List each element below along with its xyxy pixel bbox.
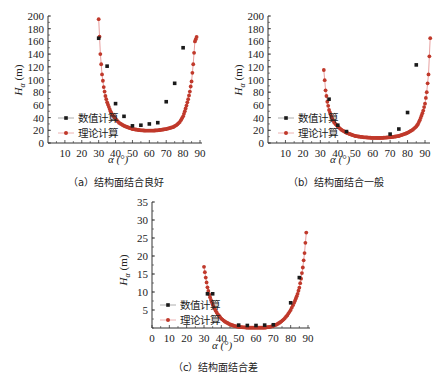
numeric-point: [327, 97, 331, 101]
x-tick-label: 60: [367, 147, 379, 159]
x-tick-label: 10: [280, 147, 292, 159]
numeric-point: [397, 127, 401, 131]
theory-point: [424, 96, 428, 100]
theory-line: [324, 38, 430, 138]
theory-point: [428, 36, 432, 40]
y-tick-label: 160: [248, 35, 265, 47]
y-tick-label: 0: [259, 137, 265, 149]
numeric-point: [105, 64, 109, 68]
legend-numeric-marker: [284, 116, 288, 120]
theory-point: [325, 94, 329, 98]
legend-theory-label: 理论计算: [78, 127, 118, 139]
numeric-point: [181, 46, 185, 50]
theory-point: [188, 90, 192, 94]
y-tick-label: 10: [137, 286, 149, 298]
y-tick-label: 20: [253, 124, 265, 136]
theory-point: [103, 90, 107, 94]
y-tick-label: 120: [28, 61, 45, 73]
numeric-point: [237, 323, 241, 327]
y-tick-label: 5: [143, 304, 149, 316]
caption-b: （b）结构面结合一般: [288, 174, 384, 189]
x-tick-label: 90: [303, 332, 315, 344]
x-tick-label: 0: [149, 332, 155, 344]
x-tick-label: 70: [385, 147, 397, 159]
x-axis-label: α (°): [108, 153, 129, 166]
x-tick-label: 20: [76, 147, 88, 159]
theory-point: [206, 285, 210, 289]
legend-theory-marker: [284, 131, 288, 135]
x-tick-label: 50: [350, 147, 362, 159]
theory-point: [422, 105, 426, 109]
numeric-point: [131, 124, 135, 128]
theory-point: [104, 97, 108, 101]
numeric-point: [254, 324, 258, 328]
y-tick-label: 160: [28, 35, 45, 47]
y-tick-label: 80: [253, 86, 265, 98]
theory-point: [202, 265, 206, 269]
y-tick-label: 15: [137, 268, 149, 280]
y-tick-label: 25: [137, 232, 149, 244]
x-tick-label: 10: [164, 332, 176, 344]
x-tick-label: 30: [199, 332, 211, 344]
theory-point: [304, 231, 308, 235]
theory-point: [191, 62, 195, 66]
theory-point: [195, 35, 199, 39]
x-tick-label: 20: [181, 332, 193, 344]
y-tick-label: 20: [33, 124, 45, 136]
x-tick-label: 70: [161, 147, 173, 159]
y-tick-label: 40: [33, 112, 45, 124]
theory-point: [301, 266, 305, 270]
figure: 0204060801001201401601802001020304050607…: [0, 0, 438, 379]
x-tick-label: 80: [402, 147, 414, 159]
legend: 数值计算理论计算: [58, 112, 118, 139]
theory-point: [326, 104, 330, 108]
numeric-point: [173, 82, 177, 86]
y-tick-label: 0: [39, 137, 45, 149]
y-tick-label: 200: [28, 10, 45, 22]
legend-theory-label: 理论计算: [180, 314, 220, 326]
numeric-point: [263, 323, 267, 327]
legend-numeric-marker: [64, 116, 68, 120]
chart-a: 0204060801001201401601802001020304050607…: [12, 10, 206, 166]
legend-numeric-label: 数值计算: [298, 112, 338, 124]
numeric-point: [139, 123, 143, 127]
numeric-point: [211, 292, 215, 296]
y-tick-label: 140: [28, 48, 45, 60]
theory-point: [187, 93, 191, 97]
numeric-point: [388, 132, 392, 136]
caption-a: （a）结构面结合良好: [68, 174, 164, 189]
numeric-point: [246, 324, 250, 328]
theory-point: [427, 73, 431, 77]
numeric-point: [414, 63, 418, 67]
x-tick-label: 50: [127, 147, 139, 159]
legend-numeric-label: 数值计算: [78, 112, 118, 124]
y-axis-label: Hα (m): [117, 254, 132, 286]
theory-point: [98, 52, 102, 56]
theory-point: [302, 258, 306, 262]
x-tick-label: 70: [268, 332, 280, 344]
numeric-point: [206, 292, 210, 296]
y-tick-label: 40: [253, 112, 265, 124]
legend-theory-marker: [64, 131, 68, 135]
chart-b: 0204060801001201401601802001020304050607…: [232, 10, 432, 166]
y-tick-label: 200: [248, 10, 265, 22]
theory-point: [104, 94, 108, 98]
theory-point: [203, 270, 207, 274]
y-tick-label: 180: [248, 23, 265, 35]
y-tick-label: 35: [137, 196, 149, 208]
theory-point: [423, 102, 427, 106]
theory-point: [185, 100, 189, 104]
theory-point: [421, 109, 425, 113]
x-tick-label: 30: [315, 147, 327, 159]
legend-numeric-label: 数值计算: [180, 299, 220, 311]
x-tick-label: 10: [59, 147, 71, 159]
x-tick-label: 90: [195, 147, 207, 159]
y-tick-label: 100: [248, 74, 265, 86]
numeric-point: [97, 36, 101, 40]
numeric-point: [289, 301, 293, 305]
y-tick-label: 60: [33, 99, 45, 111]
theory-point: [97, 17, 101, 21]
x-tick-label: 80: [178, 147, 190, 159]
theory-point: [300, 271, 304, 275]
theory-point: [99, 62, 103, 66]
